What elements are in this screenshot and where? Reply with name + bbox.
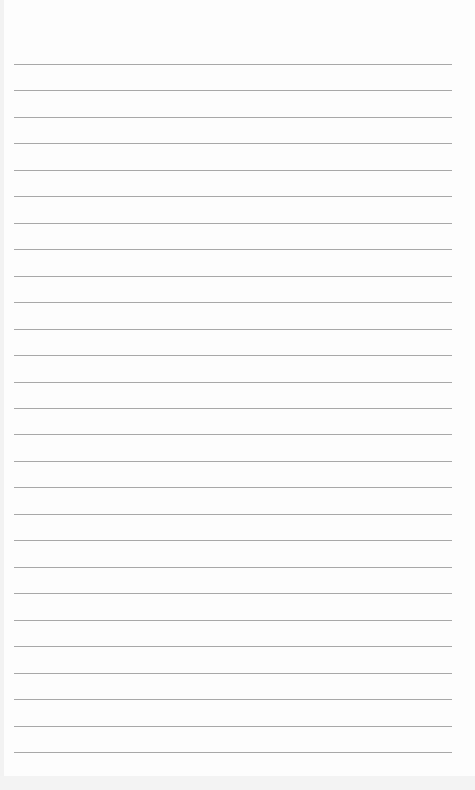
ruled-line xyxy=(14,567,452,568)
ruled-line xyxy=(14,64,452,65)
ruled-line xyxy=(14,329,452,330)
ruled-line xyxy=(14,90,452,91)
ruled-line xyxy=(14,540,452,541)
ruled-line xyxy=(14,196,452,197)
ruled-line xyxy=(14,487,452,488)
ruled-line xyxy=(14,223,452,224)
ruled-line xyxy=(14,355,452,356)
ruled-line xyxy=(14,408,452,409)
ruled-line xyxy=(14,143,452,144)
ruled-line xyxy=(14,699,452,700)
ruled-line xyxy=(14,726,452,727)
ruled-line xyxy=(14,461,452,462)
ruled-line xyxy=(14,620,452,621)
ruled-line xyxy=(14,434,452,435)
ruled-line xyxy=(14,673,452,674)
ruled-line xyxy=(14,646,452,647)
ruled-line xyxy=(14,752,452,753)
ruled-line xyxy=(14,170,452,171)
ruled-line xyxy=(14,593,452,594)
page-left-edge xyxy=(0,0,4,790)
ruled-line xyxy=(14,302,452,303)
page-bottom-edge xyxy=(0,776,475,790)
ruled-line xyxy=(14,382,452,383)
ruled-line xyxy=(14,249,452,250)
ruled-line xyxy=(14,514,452,515)
ruled-line xyxy=(14,276,452,277)
ruled-line xyxy=(14,117,452,118)
